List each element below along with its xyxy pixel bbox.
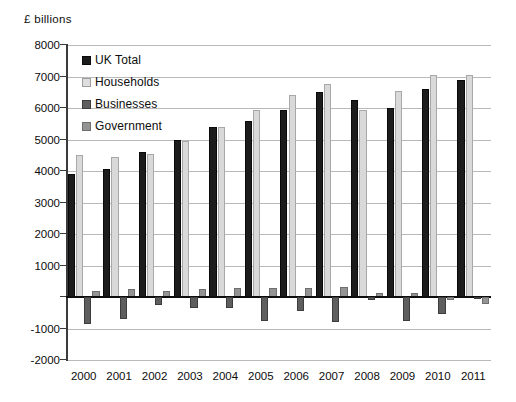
bar-group [349, 45, 384, 360]
bar [280, 110, 287, 297]
bar [482, 297, 489, 304]
legend-item[interactable]: Government [82, 115, 162, 137]
bar [209, 127, 216, 297]
x-axis-label: 2007 [319, 370, 345, 382]
legend-item[interactable]: Businesses [82, 93, 162, 115]
bar [218, 127, 225, 297]
x-axis-label: 2002 [142, 370, 168, 382]
bar [174, 140, 181, 298]
bar [395, 91, 402, 297]
y-axis-label: 5000 [14, 134, 60, 146]
y-axis-tick [60, 44, 67, 45]
bar [474, 297, 481, 299]
bar [359, 110, 366, 297]
x-axis-label: 2003 [177, 370, 203, 382]
legend-swatch-icon [82, 100, 91, 109]
y-axis-tick [60, 107, 67, 108]
y-axis-tick [60, 233, 67, 234]
y-axis-tick [60, 139, 67, 140]
legend-item-label: UK Total [95, 53, 141, 67]
bar [190, 297, 197, 308]
y-axis-tick [60, 170, 67, 171]
x-axis-label: 2005 [248, 370, 274, 382]
bar-group [243, 45, 278, 360]
bar [438, 297, 445, 314]
bar-group [279, 45, 314, 360]
bar [147, 154, 154, 297]
legend-item-label: Businesses [95, 97, 157, 111]
bar [387, 108, 394, 297]
y-axis-tick [60, 328, 67, 329]
chart-page: £ billions UK TotalHouseholdsBusinessesG… [0, 0, 516, 402]
y-axis-label: 4000 [14, 165, 60, 177]
bar [447, 297, 454, 300]
y-axis-label: -1000 [14, 323, 60, 335]
chart-legend: UK TotalHouseholdsBusinessesGovernment [82, 49, 162, 137]
legend-item-label: Government [95, 119, 162, 133]
bar [103, 169, 110, 297]
x-axis-label: 2006 [283, 370, 309, 382]
bar [253, 110, 260, 297]
bar [261, 297, 268, 321]
legend-swatch-icon [82, 56, 91, 65]
bar [139, 152, 146, 297]
bar [245, 121, 252, 297]
bar [403, 297, 410, 321]
legend-item[interactable]: Households [82, 71, 162, 93]
bar [76, 155, 83, 297]
zero-baseline [66, 296, 491, 298]
bar [289, 95, 296, 297]
x-axis-label: 2004 [213, 370, 239, 382]
bar [297, 297, 304, 311]
bar [226, 297, 233, 308]
legend-swatch-icon [82, 78, 91, 87]
bar [457, 80, 464, 297]
bar [84, 297, 91, 324]
bar [111, 157, 118, 297]
y-axis-label: 7000 [14, 71, 60, 83]
x-axis-label: 2001 [106, 370, 132, 382]
y-axis-tick [60, 202, 67, 203]
y-axis-tick [60, 265, 67, 266]
y-axis-tick [60, 76, 67, 77]
x-axis-label: 2000 [71, 370, 97, 382]
bar-group [208, 45, 243, 360]
bar [422, 89, 429, 297]
legend-item[interactable]: UK Total [82, 49, 162, 71]
bar [430, 75, 437, 297]
bar [182, 141, 189, 297]
y-axis-label: -2000 [14, 354, 60, 366]
y-axis-tick [60, 359, 67, 360]
bar [324, 84, 331, 297]
y-axis-label: 1000 [14, 260, 60, 272]
bar [368, 297, 375, 300]
x-axis-label: 2009 [390, 370, 416, 382]
x-axis-label: 2008 [354, 370, 380, 382]
bar [316, 92, 323, 297]
bar [466, 75, 473, 297]
x-axis-label: 2011 [461, 370, 486, 382]
bar-group [172, 45, 207, 360]
chart-axis-unit-title: £ billions [24, 13, 72, 25]
y-axis-label: 8000 [14, 39, 60, 51]
y-axis-label: 6000 [14, 102, 60, 114]
bar [155, 297, 162, 305]
bar [332, 297, 339, 322]
x-axis-label: 2010 [425, 370, 451, 382]
gridline [66, 360, 491, 361]
bar [120, 297, 127, 319]
legend-item-label: Households [95, 75, 159, 89]
y-axis-label: 2000 [14, 228, 60, 240]
bar-group [314, 45, 349, 360]
legend-swatch-icon [82, 122, 91, 131]
bar [351, 100, 358, 297]
y-axis-label: 3000 [14, 197, 60, 209]
bar [68, 174, 75, 297]
bar-group [456, 45, 491, 360]
bar-group [420, 45, 455, 360]
bar-group [385, 45, 420, 360]
